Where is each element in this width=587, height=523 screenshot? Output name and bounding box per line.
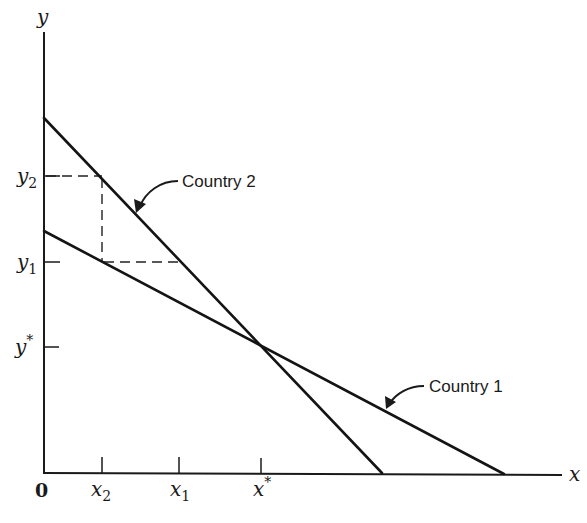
country-1-label: Country 1 xyxy=(429,377,503,396)
country-2-pointer-arrow xyxy=(134,181,178,213)
y-tick-label-ystar: y* xyxy=(14,332,33,359)
y-axis-label: y xyxy=(36,5,49,29)
x-tick-label-xstar: x* xyxy=(253,474,271,501)
country-2-label: Country 2 xyxy=(182,172,256,191)
svg-text:y2: y2 xyxy=(16,164,37,191)
origin-label: 0 xyxy=(35,479,48,501)
country-1-pointer-arrow xyxy=(385,386,424,409)
x-axis-label: x xyxy=(569,462,580,486)
country-1-line xyxy=(44,231,504,474)
svg-text:y*: y* xyxy=(14,332,33,359)
svg-text:x1: x1 xyxy=(170,477,190,504)
x-tick-label-x2: x2 xyxy=(91,477,111,504)
x-axis xyxy=(43,473,562,475)
y-tick-label-y1: y1 xyxy=(16,250,37,277)
svg-text:x*: x* xyxy=(253,474,271,501)
y-tick-label-y2: y2 xyxy=(16,164,37,191)
x-tick-label-x1: x1 xyxy=(170,477,190,504)
svg-text:y1: y1 xyxy=(16,250,37,277)
trade-diagram: y x 0 x2 x1 x* y2 y1 y* Country 2 C xyxy=(0,0,587,523)
svg-text:x2: x2 xyxy=(91,477,111,504)
